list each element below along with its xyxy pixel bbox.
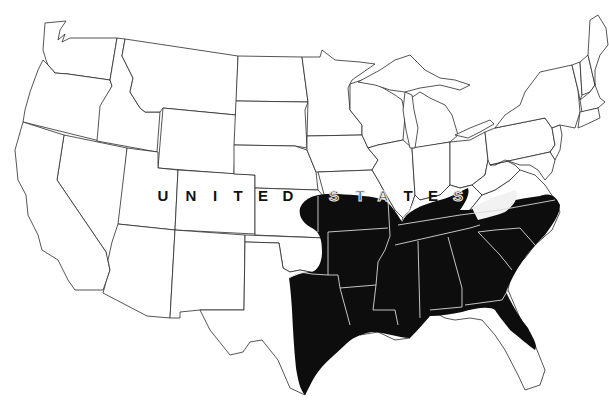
state-montana	[122, 39, 238, 115]
label-letter: D	[283, 187, 294, 204]
state-south-dakota	[234, 101, 308, 148]
label-letter: T	[355, 187, 364, 204]
label-letter: N	[186, 187, 197, 204]
label-letter: S	[453, 187, 463, 204]
label-letter: I	[213, 187, 217, 204]
label-letter: T	[403, 187, 412, 204]
label-letter: U	[158, 187, 169, 204]
state-washington	[43, 21, 117, 80]
label-letter: A	[378, 187, 389, 204]
us-range-map: U N I T E D S T A T E S	[0, 0, 609, 404]
label-letter: T	[233, 187, 242, 204]
label-letter: E	[428, 187, 438, 204]
state-new-york	[495, 65, 580, 128]
state-connecticut-rhode-island	[578, 108, 600, 128]
label-letter: E	[258, 187, 268, 204]
state-arizona	[103, 224, 175, 318]
label-letter: S	[329, 187, 339, 204]
state-wyoming	[158, 108, 236, 174]
state-north-dakota	[236, 56, 308, 102]
state-new-mexico	[170, 230, 245, 318]
